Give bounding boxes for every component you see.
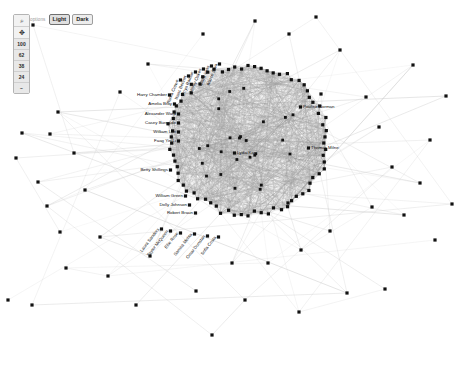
graph-node[interactable] [318, 104, 321, 107]
graph-node[interactable] [219, 212, 222, 215]
graph-node[interactable] [433, 238, 436, 241]
graph-node[interactable] [170, 135, 173, 138]
graph-node[interactable] [301, 192, 304, 195]
graph-node[interactable] [181, 93, 184, 96]
graph-node[interactable] [238, 137, 241, 140]
graph-node[interactable] [193, 191, 196, 194]
graph-node[interactable] [20, 131, 23, 134]
graph-node[interactable] [286, 205, 289, 208]
graph-node[interactable] [236, 158, 239, 161]
graph-node[interactable] [210, 333, 213, 336]
graph-node[interactable] [233, 65, 236, 68]
graph-node[interactable] [290, 78, 293, 81]
graph-node[interactable] [173, 110, 176, 113]
graph-node[interactable] [286, 72, 289, 75]
graph-node[interactable] [272, 206, 275, 209]
graph-node[interactable] [290, 199, 293, 202]
graph-node[interactable] [229, 136, 232, 139]
zoom-search-icon[interactable]: ⌕ [14, 15, 29, 27]
graph-node[interactable] [45, 204, 48, 207]
labeled-graph-node[interactable] [217, 235, 220, 238]
graph-node[interactable] [307, 189, 310, 192]
graph-node[interactable] [148, 254, 151, 257]
labeled-graph-node[interactable] [179, 78, 182, 81]
graph-node[interactable] [266, 69, 269, 72]
graph-node[interactable] [428, 138, 431, 141]
graph-node[interactable] [323, 160, 326, 163]
theme-dark-button[interactable]: Dark [72, 14, 92, 25]
zoom-level-100[interactable]: 100 [14, 39, 29, 50]
graph-node[interactable] [190, 83, 193, 86]
graph-node[interactable] [206, 144, 209, 147]
graph-node[interactable] [201, 75, 204, 78]
labeled-graph-node[interactable] [233, 151, 236, 154]
graph-node[interactable] [306, 89, 309, 92]
zoom-level-24[interactable]: 24 [14, 72, 29, 83]
graph-node[interactable] [267, 212, 270, 215]
graph-node[interactable] [262, 120, 265, 123]
graph-node[interactable] [242, 87, 245, 90]
graph-node[interactable] [176, 165, 179, 168]
graph-node[interactable] [311, 101, 314, 104]
graph-node[interactable] [289, 153, 292, 156]
graph-node[interactable] [259, 188, 262, 191]
graph-node[interactable] [322, 141, 325, 144]
graph-node[interactable] [171, 129, 174, 132]
zoom-level-62[interactable]: 62 [14, 50, 29, 61]
graph-node[interactable] [260, 184, 263, 187]
labeled-graph-node[interactable] [210, 64, 213, 67]
graph-node[interactable] [253, 19, 256, 22]
graph-node[interactable] [314, 15, 317, 18]
graph-node[interactable] [209, 201, 212, 204]
graph-node[interactable] [201, 32, 204, 35]
graph-node[interactable] [233, 214, 236, 217]
graph-node[interactable] [411, 63, 414, 66]
graph-node[interactable] [319, 92, 322, 95]
graph-node[interactable] [303, 83, 306, 86]
graph-node[interactable] [311, 176, 314, 179]
labeled-graph-node[interactable] [299, 105, 302, 108]
graph-node[interactable] [308, 182, 311, 185]
graph-node[interactable] [220, 150, 223, 153]
graph-node[interactable] [308, 96, 311, 99]
graph-node[interactable] [227, 209, 230, 212]
graph-node[interactable] [383, 287, 386, 290]
zoom-level-38[interactable]: 38 [14, 61, 29, 72]
graph-node[interactable] [345, 291, 348, 294]
graph-node[interactable] [243, 298, 246, 301]
graph-node[interactable] [364, 95, 367, 98]
labeled-graph-node[interactable] [206, 234, 209, 237]
theme-toolbar[interactable]: options Light Dark [30, 14, 93, 25]
labeled-graph-node[interactable] [173, 102, 176, 105]
graph-node[interactable] [230, 261, 233, 264]
graph-node[interactable] [170, 142, 173, 145]
graph-node[interactable] [217, 97, 220, 100]
labeled-graph-node[interactable] [160, 227, 163, 230]
graph-node[interactable] [198, 147, 201, 150]
graph-node[interactable] [172, 154, 175, 157]
labeled-graph-node[interactable] [202, 67, 205, 70]
graph-node[interactable] [172, 117, 175, 120]
graph-node[interactable] [254, 152, 257, 155]
graph-node[interactable] [6, 298, 9, 301]
graph-node[interactable] [64, 266, 67, 269]
graph-node[interactable] [98, 235, 101, 238]
graph-node[interactable] [295, 195, 298, 198]
graph-node[interactable] [240, 213, 243, 216]
graph-node[interactable] [201, 162, 204, 165]
graph-node[interactable] [212, 68, 215, 71]
graph-node[interactable] [317, 112, 320, 115]
labeled-graph-node[interactable] [169, 229, 172, 232]
graph-node[interactable] [402, 213, 405, 216]
graph-node[interactable] [377, 125, 380, 128]
graph-node[interactable] [234, 187, 237, 190]
labeled-graph-node[interactable] [218, 62, 221, 65]
graph-node[interactable] [370, 205, 373, 208]
graph-node[interactable] [58, 230, 61, 233]
graph-node[interactable] [177, 172, 180, 175]
zoom-level-more[interactable]: – [14, 83, 29, 93]
graph-node[interactable] [204, 198, 207, 201]
graph-node[interactable] [272, 71, 275, 74]
graph-node[interactable] [221, 70, 224, 73]
labeled-graph-node[interactable] [177, 139, 180, 142]
